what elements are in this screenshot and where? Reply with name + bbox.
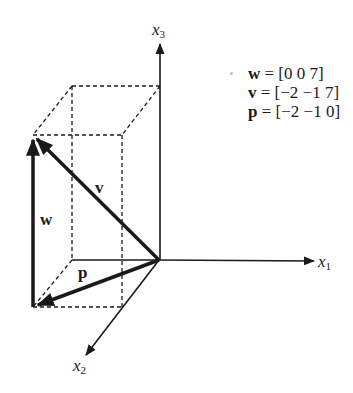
x1-label-text: x (318, 252, 326, 271)
x1-label: x1 (318, 252, 331, 272)
x1-axis (159, 260, 314, 261)
x3-label-sub: 3 (160, 28, 166, 40)
legend-eq-p: = [−2 −1 0] (257, 102, 340, 121)
x3-label-text: x (152, 20, 160, 39)
legend-row-w: w = [0 0 7] (248, 64, 340, 83)
legend-var-v: v (248, 83, 257, 102)
x2-label-sub: 2 (81, 364, 87, 376)
w-label: w (40, 210, 52, 230)
legend-row-p: p = [−2 −1 0] (248, 102, 340, 121)
x3-label: x3 (152, 20, 165, 40)
x2-label-text: x (73, 356, 81, 375)
x1-label-sub: 1 (326, 260, 332, 272)
legend-eq-w: = [0 0 7] (260, 64, 323, 83)
vector-diagram (0, 0, 353, 393)
x2-label: x2 (73, 356, 86, 376)
legend: w = [0 0 7] v = [−2 −1 7] p = [−2 −1 0] (248, 64, 340, 121)
v-label: v (95, 178, 104, 198)
legend-var-w: w (248, 64, 260, 83)
speck (230, 72, 233, 75)
legend-row-v: v = [−2 −1 7] (248, 83, 340, 102)
vector-v (37, 139, 159, 260)
p-label: p (78, 263, 87, 283)
legend-eq-v: = [−2 −1 7] (257, 83, 340, 102)
